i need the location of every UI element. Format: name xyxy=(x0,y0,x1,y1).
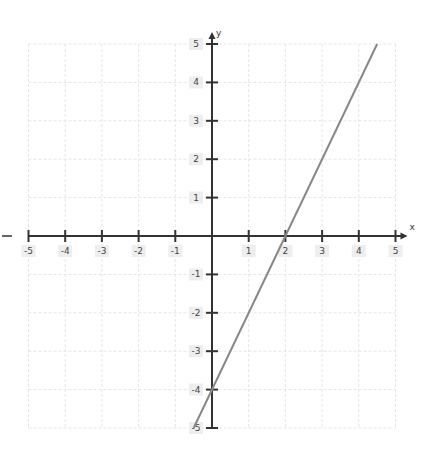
coordinate-plane: xy-5-4-3-2-11234554321-1-2-3-4-5 xyxy=(0,0,434,463)
y-tick-label: 3 xyxy=(193,116,199,126)
y-axis-arrow-icon xyxy=(209,32,216,39)
y-tick-label: 5 xyxy=(193,39,199,49)
x-axis-arrow-icon xyxy=(401,233,408,240)
x-tick-label: -4 xyxy=(61,246,70,256)
x-axis-label: x xyxy=(410,222,416,232)
x-tick-label: 5 xyxy=(393,246,399,256)
y-tick-label: 2 xyxy=(193,154,199,164)
y-tick-label: -1 xyxy=(192,269,201,279)
x-tick-label: 2 xyxy=(283,246,289,256)
x-tick-label: -5 xyxy=(24,246,33,256)
y-tick-label: 4 xyxy=(193,77,199,87)
x-tick-label: -3 xyxy=(97,246,106,256)
x-tick-label: -2 xyxy=(134,246,143,256)
y-tick-label: -2 xyxy=(192,308,201,318)
y-tick-label: -3 xyxy=(192,346,201,356)
x-tick-label: -1 xyxy=(171,246,180,256)
y-tick-label: 1 xyxy=(193,193,199,203)
y-tick-label: -4 xyxy=(192,385,201,395)
x-tick-label: 1 xyxy=(246,246,252,256)
x-tick-label: 4 xyxy=(356,246,362,256)
x-tick-label: 3 xyxy=(319,246,325,256)
y-axis-label: y xyxy=(216,28,222,38)
